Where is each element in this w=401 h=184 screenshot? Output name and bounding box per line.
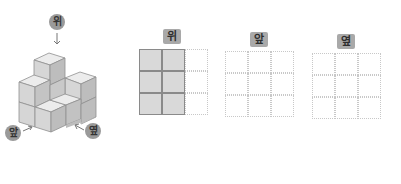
top-view-grid[interactable] <box>139 49 208 115</box>
grid-cell[interactable] <box>248 51 271 73</box>
front-view-badge: 앞 <box>5 125 21 141</box>
grid-cell[interactable] <box>248 95 271 117</box>
grid-cell[interactable] <box>139 71 162 93</box>
grid-cell[interactable] <box>225 51 248 73</box>
grid-cell[interactable] <box>271 73 294 95</box>
top-view-label: 위 <box>163 29 181 44</box>
grid-cell[interactable] <box>358 75 381 97</box>
grid-cell[interactable] <box>358 97 381 119</box>
cube-stack-figure: 위 <box>0 0 130 184</box>
side-view-badge: 옆 <box>85 123 101 139</box>
grid-cell[interactable] <box>225 73 248 95</box>
grid-cell[interactable] <box>162 49 185 71</box>
grid-cell[interactable] <box>248 73 271 95</box>
grid-cell[interactable] <box>335 53 358 75</box>
grid-cell[interactable] <box>162 93 185 115</box>
side-view-label: 옆 <box>337 34 355 49</box>
grid-cell[interactable] <box>312 75 335 97</box>
grid-cell[interactable] <box>185 93 208 115</box>
grid-cell[interactable] <box>312 97 335 119</box>
grid-cell[interactable] <box>185 49 208 71</box>
front-view-label: 앞 <box>250 32 268 47</box>
grid-cell[interactable] <box>271 95 294 117</box>
cubes <box>19 53 96 132</box>
grid-cell[interactable] <box>139 49 162 71</box>
grid-cell[interactable] <box>312 53 335 75</box>
grid-cell[interactable] <box>162 71 185 93</box>
grid-cell[interactable] <box>225 95 248 117</box>
arrow-front-icon <box>23 126 32 131</box>
grid-cell[interactable] <box>271 51 294 73</box>
grid-cell[interactable] <box>335 75 358 97</box>
grid-cell[interactable] <box>185 71 208 93</box>
arrow-down-icon <box>54 33 60 44</box>
front-view-grid[interactable] <box>225 51 294 117</box>
grid-cell[interactable] <box>335 97 358 119</box>
grid-cell[interactable] <box>139 93 162 115</box>
arrow-side-icon <box>75 124 84 130</box>
grid-cell[interactable] <box>358 53 381 75</box>
side-view-grid[interactable] <box>312 53 381 119</box>
cube-stack-drawing <box>0 0 130 184</box>
